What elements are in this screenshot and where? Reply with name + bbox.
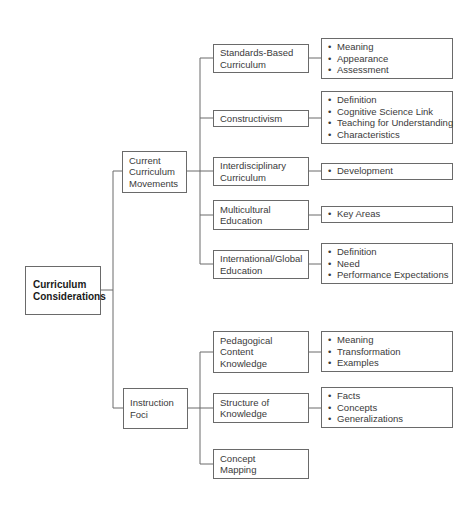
node-label: Standards-Based Curriculum	[220, 47, 302, 70]
list-item: Facts	[328, 390, 452, 402]
node-label: Constructivism	[220, 113, 282, 125]
branch-label: Instruction Foci	[130, 397, 181, 420]
list-item: Development	[328, 165, 452, 177]
list-international-global: Definition Need Performance Expectations	[321, 243, 453, 284]
list-pedagogical-content-knowledge: Meaning Transformation Examples	[321, 331, 453, 372]
list-item: Meaning	[328, 334, 452, 346]
node-standards-based-curriculum: Standards-Based Curriculum	[213, 44, 309, 73]
branch-current-curriculum-movements: Current Curriculum Movements	[122, 151, 187, 193]
list-constructivism: Definition Cognitive Science Link Teachi…	[321, 91, 453, 144]
list-item: Assessment	[328, 64, 452, 76]
node-label: Structure of Knowledge	[220, 397, 290, 420]
node-label: Concept Mapping	[220, 453, 270, 476]
list-item: Performance Expectations	[328, 269, 452, 281]
list-interdisciplinary: Development	[321, 163, 453, 180]
node-concept-mapping: Concept Mapping	[213, 449, 309, 479]
list-item: Examples	[328, 357, 452, 369]
node-label: Multicultural Education	[220, 204, 302, 227]
list-item: Transformation	[328, 346, 452, 358]
list-item: Characteristics	[328, 129, 452, 141]
list-item: Definition	[328, 246, 452, 258]
node-label: Pedagogical Content Knowledge	[220, 335, 280, 370]
list-item: Need	[328, 258, 452, 270]
list-item: Cognitive Science Link	[328, 106, 452, 118]
node-label: International/Global Education	[220, 253, 302, 276]
list-item: Appearance	[328, 53, 452, 65]
list-item: Concepts	[328, 402, 452, 414]
node-international-global-education: International/Global Education	[213, 250, 309, 279]
list-item: Teaching for Understanding	[328, 117, 452, 129]
list-item: Definition	[328, 94, 452, 106]
root-node: Curriculum Considerations	[25, 266, 101, 315]
node-multicultural-education: Multicultural Education	[213, 200, 309, 230]
node-interdisciplinary-curriculum: Interdisciplinary Curriculum	[213, 157, 309, 186]
list-structure-of-knowledge: Facts Concepts Generalizations	[321, 387, 453, 428]
node-structure-of-knowledge: Structure of Knowledge	[213, 393, 309, 423]
branch-label: Current Curriculum Movements	[129, 155, 180, 190]
node-label: Interdisciplinary Curriculum	[220, 160, 302, 183]
list-item: Key Areas	[328, 208, 452, 220]
node-constructivism: Constructivism	[213, 110, 309, 127]
branch-instruction-foci: Instruction Foci	[123, 388, 188, 429]
list-multicultural: Key Areas	[321, 206, 453, 223]
node-pedagogical-content-knowledge: Pedagogical Content Knowledge	[213, 331, 309, 373]
list-item: Meaning	[328, 41, 452, 53]
list-item: Generalizations	[328, 413, 452, 425]
root-label: Curriculum Considerations	[33, 279, 106, 303]
list-standards-based: Meaning Appearance Assessment	[321, 38, 453, 79]
